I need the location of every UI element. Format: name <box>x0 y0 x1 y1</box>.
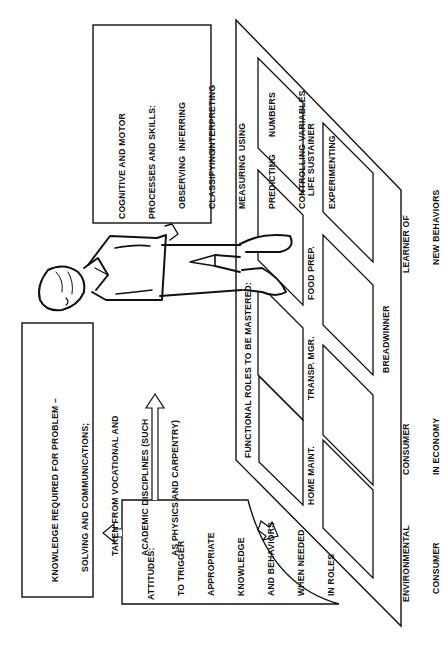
role-learner-line2: NEW BEHAVIORS <box>431 190 441 274</box>
role-food-prep: FOOD PREP. <box>306 246 316 300</box>
role-learner-line1: LEARNER OF <box>401 190 411 274</box>
attitudes-box: ATTITUDES: TO TRIGGER APPROPRIATE KNOWLE… <box>126 500 346 600</box>
role-consumer-in-economy: CONSUMER IN ECONOMY <box>381 418 444 475</box>
skill-predicting: PREDICTING <box>267 151 277 209</box>
role-home-maint: HOME MAINT. <box>306 446 316 505</box>
attitudes-line-4: KNOWLEDGE <box>236 500 246 600</box>
role-transp-mgr: TRANSP. MGR. <box>306 336 316 400</box>
role-breadwinner: BREADWINNER <box>381 305 391 373</box>
attitudes-line-5: AND BEHAVIORS <box>266 500 276 600</box>
role-learner-of-new-behaviors: LEARNER OF NEW BEHAVIORS <box>381 190 444 274</box>
role-consumer-in-economy-line2: IN ECONOMY <box>431 418 441 475</box>
skill-interpreting: INTERPRETING <box>207 85 217 151</box>
skill-numbers: NUMBERS <box>267 92 277 151</box>
knowledge-line-3: TAKEN FROM VOCATIONAL AND <box>110 322 120 582</box>
attitudes-line-1: ATTITUDES: <box>146 500 156 600</box>
cognitive-title-2: PROCESSES AND SKILLS: <box>147 27 157 219</box>
skill-classifying: CLASSIFYING <box>207 151 217 209</box>
skill-using: USING <box>237 123 247 151</box>
role-environmental-consumer-line2: CONSUMER <box>431 525 441 602</box>
skill-observing: OBSERVING <box>177 151 187 209</box>
floor-header: FUNCTIONAL ROLES TO BE MASTERED: <box>243 282 253 458</box>
role-life-sustainer: LIFE SUSTAINER <box>306 123 316 196</box>
attitudes-line-6: WHEN NEEDED <box>296 500 306 600</box>
skill-inferring: INFERRING <box>177 102 187 151</box>
role-environmental-consumer-line1: ENVIRONMENTAL <box>401 525 411 602</box>
knowledge-line-2: SOLVING AND COMMUNICATIONS; <box>80 322 90 582</box>
attitudes-line-3: APPROPRIATE <box>206 500 216 600</box>
skill-experimenting: EXPERIMENTING <box>327 27 337 219</box>
cognitive-title-1: COGNITIVE AND MOTOR <box>117 27 127 219</box>
role-consumer-in-economy-line1: CONSUMER <box>401 418 411 475</box>
student-figure-icon <box>39 224 292 310</box>
attitudes-line-2: TO TRIGGER <box>176 500 186 600</box>
skill-measuring: MEASURING <box>237 151 247 209</box>
role-environmental-consumer: ENVIRONMENTAL CONSUMER <box>381 525 444 602</box>
attitudes-line-7: IN ROLES <box>326 500 336 600</box>
knowledge-line-1: KNOWLEDGE REQUIRED FOR PROBLEM – <box>50 322 60 582</box>
